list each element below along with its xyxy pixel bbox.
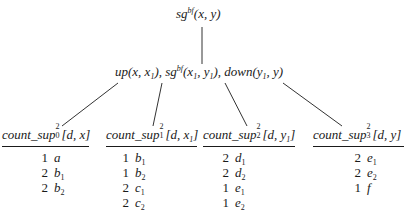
header-sub: 1 bbox=[159, 131, 163, 140]
table-row: 2d2 bbox=[215, 165, 295, 180]
row-value-sub: 2 bbox=[141, 203, 145, 212]
header-sup: 2 bbox=[366, 122, 370, 131]
header-name: count_sup bbox=[203, 127, 256, 142]
sep1: ), bbox=[154, 64, 165, 79]
header-name: count_sup bbox=[313, 127, 366, 142]
header-supsub: 22 bbox=[256, 129, 262, 139]
row-count: 2 bbox=[347, 150, 361, 165]
table-count-sup-3: count_sup23[d, y]2e12e21f bbox=[313, 127, 404, 195]
row-value: f bbox=[367, 180, 371, 195]
table-row: 2e2 bbox=[347, 165, 404, 180]
header-args-close: ] bbox=[85, 127, 90, 142]
header-sup: 2 bbox=[55, 122, 59, 131]
row-value-sub: 2 bbox=[241, 203, 245, 212]
header-sub: 2 bbox=[256, 131, 260, 140]
table-row: 2c2 bbox=[115, 195, 197, 210]
table-header: count_sup23[d, y] bbox=[313, 127, 404, 147]
table-header: count_sup22[d, y1] bbox=[203, 127, 295, 147]
table-count-sup-0: count_sup20[d, x]1a2b12b2 bbox=[2, 127, 89, 195]
sg-open: (x bbox=[183, 64, 193, 79]
header-args-close: ] bbox=[290, 127, 295, 142]
header-supsub: 20 bbox=[55, 129, 61, 139]
row-count: 1 bbox=[215, 195, 229, 210]
sg-pred: sg bbox=[165, 64, 177, 79]
row-count: 2 bbox=[215, 165, 229, 180]
row-count: 2 bbox=[34, 165, 48, 180]
table-row: 2e1 bbox=[347, 150, 404, 165]
header-supsub: 21 bbox=[159, 129, 165, 139]
table-header: count_sup20[d, x] bbox=[2, 127, 89, 147]
table-row: 1b2 bbox=[115, 165, 197, 180]
header-sub: 3 bbox=[366, 131, 370, 140]
table-row: 2b1 bbox=[34, 165, 89, 180]
table-count-sup-1: count_sup21[d, x1]1b11b22c12c2 bbox=[106, 127, 197, 210]
header-sup: 2 bbox=[159, 122, 163, 131]
header-name: count_sup bbox=[106, 127, 159, 142]
table-row: 1a bbox=[34, 150, 89, 165]
down-end: , y) bbox=[267, 64, 284, 79]
table-row: 1e2 bbox=[215, 195, 295, 210]
middle-node: up(x, x1), sgbf(x1, y1), down(y1, y) bbox=[115, 64, 283, 80]
sep2: ), bbox=[213, 64, 224, 79]
row-count: 2 bbox=[347, 165, 361, 180]
down-pred: down(y bbox=[224, 64, 262, 79]
header-sup: 2 bbox=[256, 122, 260, 131]
header-args-close: ] bbox=[396, 127, 401, 142]
root-pred: sg bbox=[176, 6, 188, 21]
row-count: 1 bbox=[115, 165, 129, 180]
table-row: 2b2 bbox=[34, 180, 89, 195]
edge-middle-to-table-0 bbox=[62, 83, 118, 126]
table-row: 1e1 bbox=[215, 180, 295, 195]
row-count: 2 bbox=[34, 180, 48, 195]
header-supsub: 23 bbox=[366, 129, 372, 139]
sg-mid: , y bbox=[197, 64, 209, 79]
table-rows: 1b11b22c12c2 bbox=[106, 150, 197, 210]
header-sub: 0 bbox=[55, 131, 59, 140]
row-count: 2 bbox=[115, 180, 129, 195]
row-value: a bbox=[54, 150, 61, 165]
row-value-sub: 2 bbox=[61, 188, 65, 197]
root-node: sgbf(x, y) bbox=[176, 6, 221, 22]
table-row: 2c1 bbox=[115, 180, 197, 195]
table-rows: 2e12e21f bbox=[313, 150, 404, 195]
row-count: 2 bbox=[215, 150, 229, 165]
root-args: (x, y) bbox=[194, 6, 221, 21]
row-count: 1 bbox=[215, 180, 229, 195]
header-args: [d, y bbox=[372, 127, 396, 142]
row-count: 1 bbox=[347, 180, 361, 195]
table-count-sup-2: count_sup22[d, y1]2d12d21e11e2 bbox=[203, 127, 295, 210]
table-rows: 2d12d21e11e2 bbox=[203, 150, 295, 210]
table-header: count_sup21[d, x1] bbox=[106, 127, 197, 147]
edge-middle-to-table-2 bbox=[225, 83, 247, 126]
row-count: 2 bbox=[115, 195, 129, 210]
up-pred: up(x, x bbox=[115, 64, 150, 79]
edge-middle-to-table-3 bbox=[283, 83, 342, 126]
header-name: count_sup bbox=[2, 127, 55, 142]
header-args: [d, y bbox=[262, 127, 286, 142]
table-row: 2d1 bbox=[215, 150, 295, 165]
row-value-sub: 2 bbox=[373, 173, 377, 182]
row-count: 1 bbox=[115, 150, 129, 165]
table-row: 1f bbox=[347, 180, 404, 195]
table-rows: 1a2b12b2 bbox=[2, 150, 89, 195]
header-args: [d, x bbox=[61, 127, 85, 142]
header-args-close: ] bbox=[193, 127, 198, 142]
row-count: 1 bbox=[34, 150, 48, 165]
header-args: [d, x bbox=[165, 127, 189, 142]
table-row: 1b1 bbox=[115, 150, 197, 165]
edge-middle-to-table-1 bbox=[153, 83, 162, 126]
